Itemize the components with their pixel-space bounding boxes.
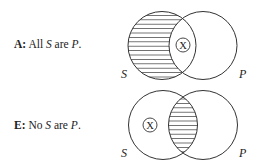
venn-diagram-a: X S P	[120, 8, 247, 88]
x-marker: X	[176, 38, 190, 52]
x-marker: X	[143, 118, 157, 132]
set-label-p: P	[238, 146, 247, 160]
venn-diagrams: X S P X S P	[0, 0, 259, 168]
shaded-region-s-only	[120, 8, 210, 88]
venn-diagram-e: X S P	[121, 91, 247, 161]
set-label-p: P	[238, 67, 247, 81]
svg-text:X: X	[146, 120, 154, 131]
svg-text:X: X	[179, 40, 187, 51]
set-label-s: S	[121, 146, 127, 160]
set-label-s: S	[121, 67, 127, 81]
